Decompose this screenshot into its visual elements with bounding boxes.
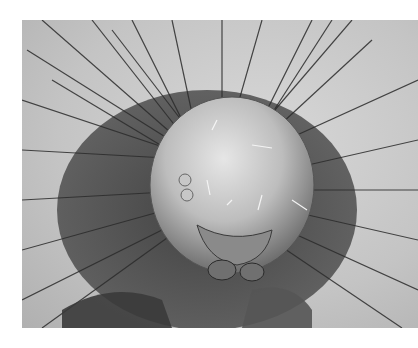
sem-micrograph-photo	[22, 20, 418, 328]
caterpillar-head-illustration	[22, 20, 418, 328]
